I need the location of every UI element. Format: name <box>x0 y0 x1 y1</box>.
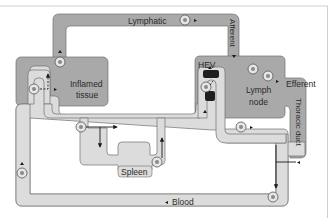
triangle-right-icon <box>250 126 253 129</box>
triangle-left-icon <box>297 161 300 164</box>
label-inflamed-tissue-2: tissue <box>76 90 98 100</box>
lymphocyte-icon <box>152 157 162 167</box>
hev-block-upper <box>203 70 219 78</box>
lymphocyte-icon <box>180 15 190 25</box>
label-lymph-node-1: Lymph <box>246 85 271 95</box>
lymphocyte-icon <box>29 84 39 94</box>
label-afferent: Afferent <box>228 19 237 48</box>
label-blood: Blood <box>172 197 194 207</box>
lymphocyte-icon <box>76 122 86 132</box>
label-lymph-node-2: node <box>249 97 268 107</box>
lymphocyte-recirculation-diagram: Lymphatic Afferent Inflamed tissue HEV L… <box>0 0 333 224</box>
lymphocyte-icon <box>268 192 278 202</box>
label-lymphatic: Lymphatic <box>128 16 167 26</box>
lymphocyte-icon <box>263 71 273 81</box>
label-spleen: Spleen <box>121 167 148 177</box>
lymphocyte-icon <box>201 82 211 92</box>
hev-block-lower <box>205 91 215 101</box>
lymphocyte-icon <box>236 122 246 132</box>
lymphocyte-icon <box>55 57 65 67</box>
label-inflamed-tissue-1: Inflamed <box>70 79 103 89</box>
label-thoracic-duct: Thoracic duct <box>294 98 303 147</box>
label-hev: HEV <box>198 60 216 70</box>
label-efferent: Efferent <box>286 79 316 89</box>
lymphocyte-icon <box>17 168 27 178</box>
lymphocyte-icon <box>248 64 258 74</box>
